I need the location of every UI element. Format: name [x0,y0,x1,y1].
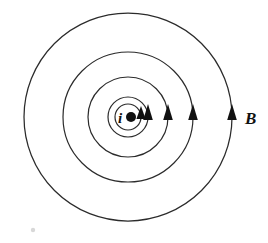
bfield-label: B [244,109,256,128]
scan-speck [31,228,35,232]
current-out-of-page-dot-icon [126,112,136,122]
field-diagram-figure: i B [0,0,268,243]
diagram-background [0,0,268,243]
magnetic-field-diagram: i B [0,0,268,243]
